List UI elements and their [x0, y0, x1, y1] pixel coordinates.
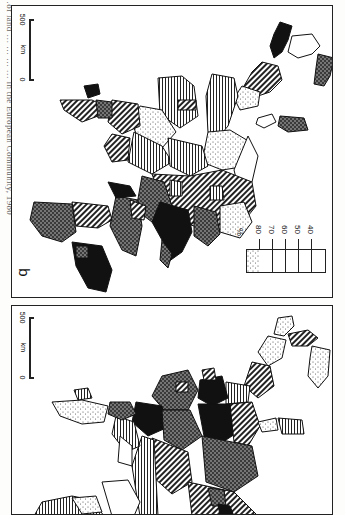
legend-swatch-40-50 — [299, 250, 312, 272]
region — [258, 336, 286, 366]
region — [258, 418, 278, 432]
scale-unit-label: km — [20, 343, 27, 352]
legend-swatch-70-80 — [260, 250, 273, 272]
legend-swatches — [246, 249, 326, 273]
region — [256, 114, 276, 128]
scale-start-label: 0 — [19, 78, 26, 82]
region — [202, 368, 216, 380]
scale-bar-a: 500 km 0 — [16, 314, 46, 384]
panel-label-b: b — [16, 268, 33, 276]
region — [226, 382, 250, 404]
region — [288, 330, 318, 346]
map-a — [12, 306, 333, 515]
region — [30, 202, 76, 242]
legend-swatch-below-40 — [312, 250, 325, 272]
region — [108, 182, 136, 198]
map-panel-b: 500 km 0 b % 80 70 60 50 40 — [11, 5, 333, 298]
region — [84, 84, 100, 98]
region — [210, 186, 224, 200]
region — [230, 402, 260, 446]
region — [74, 388, 92, 400]
scale-start-label: 0 — [19, 376, 26, 380]
map-panel-a: 500 km 0 — [11, 305, 333, 515]
scale-end-label: 500 — [19, 14, 26, 26]
region — [52, 400, 108, 424]
legend-tick-40: 40 — [306, 225, 315, 234]
region — [194, 206, 220, 246]
region — [152, 202, 192, 262]
legend-swatch-60-70 — [273, 250, 286, 272]
region — [202, 436, 258, 492]
scale-unit-label: km — [20, 45, 27, 54]
region — [170, 180, 182, 196]
region — [72, 202, 112, 228]
region — [178, 100, 196, 110]
region — [152, 370, 198, 410]
region — [308, 346, 330, 388]
region — [104, 134, 130, 162]
region — [314, 54, 333, 86]
legend-tick-80: 80 — [254, 225, 263, 234]
region — [168, 138, 208, 176]
region — [278, 116, 308, 132]
region — [278, 418, 304, 434]
legend-tick-60: 60 — [280, 225, 289, 234]
region — [76, 246, 88, 258]
legend-tick-50: 50 — [293, 225, 302, 234]
region — [102, 480, 140, 515]
region — [96, 100, 112, 118]
region — [108, 402, 136, 420]
legend-tick-70: 70 — [267, 225, 276, 234]
legend-unit: % — [235, 228, 245, 236]
scale-end-label: 500 — [19, 312, 26, 324]
region — [132, 402, 166, 436]
legend: % 80 70 60 50 40 — [240, 219, 330, 289]
region — [288, 34, 320, 58]
region — [176, 382, 188, 392]
region — [206, 74, 238, 138]
scale-bar-b: 500 km 0 — [16, 16, 46, 86]
legend-swatch-50-60 — [286, 250, 299, 272]
